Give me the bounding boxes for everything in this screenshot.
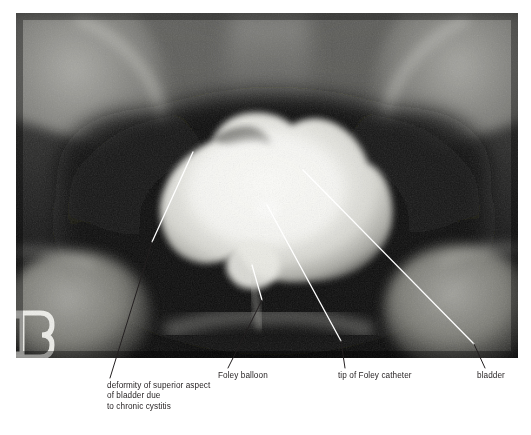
radiograph-image [16, 13, 518, 358]
radiograph-canvas [16, 13, 518, 358]
annotation-label-tip-of-foley-catheter: tip of Foley catheter [338, 371, 412, 381]
annotation-label-deformity-of-superior-aspect: deformity of superior aspect of bladder … [107, 381, 210, 412]
figure-annotated-radiograph: deformity of superior aspect of bladder … [0, 0, 531, 435]
annotation-label-bladder: bladder [477, 371, 505, 381]
annotation-label-foley-balloon: Foley balloon [218, 371, 268, 381]
film-grain [16, 13, 518, 358]
